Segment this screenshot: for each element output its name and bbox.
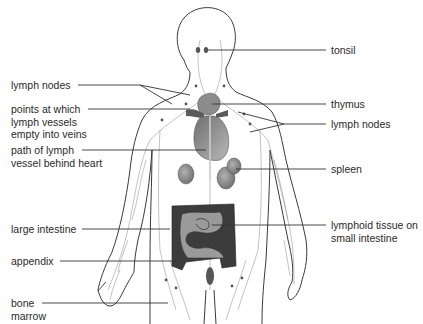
label-tonsil: tonsil [331, 44, 356, 57]
rectum [206, 267, 214, 285]
label-lymph-nodes-neck: lymph nodes [11, 79, 71, 92]
label-spleen: spleen [331, 163, 362, 176]
lymph-vessels [108, 40, 294, 320]
label-points-empty-into-veins: points at which lymph vessels empty into… [11, 103, 87, 141]
label-thymus: thymus [331, 98, 365, 111]
spleen-organ [227, 158, 241, 174]
lymphatic-system-diagram: lymph nodes points at which lymph vessel… [0, 0, 423, 324]
left-kidney [178, 164, 194, 184]
label-path-behind-heart: path of lymph vessel behind heart [11, 144, 102, 169]
heart [194, 116, 229, 161]
label-bone-marrow: bone marrow [11, 297, 46, 322]
intestines [172, 204, 236, 285]
tonsils [196, 47, 208, 53]
label-lymph-nodes-armpit: lymph nodes [331, 118, 391, 131]
label-appendix: appendix [11, 255, 54, 268]
label-large-intestine: large intestine [11, 223, 76, 236]
label-lymphoid-tissue: lymphoid tissue on small intestine [331, 219, 418, 244]
